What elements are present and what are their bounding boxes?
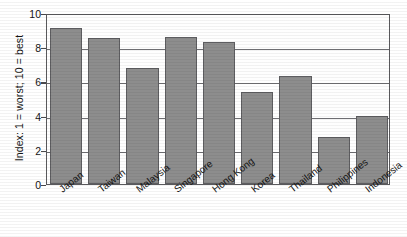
bar-chart: Index: 1 = worst; 10 = best 0246810 Japa… [0, 0, 407, 237]
y-axis-tick-label: 2 [17, 146, 41, 157]
bar [50, 28, 82, 184]
y-axis-tick-label: 10 [17, 9, 41, 20]
bar [165, 37, 197, 184]
bar [126, 68, 158, 184]
y-axis-tick-label: 4 [17, 111, 41, 122]
bar-series [47, 15, 389, 184]
y-axis-tick-label: 8 [17, 43, 41, 54]
plot-area [46, 14, 390, 185]
bar [279, 76, 311, 184]
y-axis-tick-label: 0 [17, 180, 41, 191]
bar [88, 38, 120, 184]
y-axis-tick-label: 6 [17, 77, 41, 88]
y-axis-tick-labels: 0246810 [0, 14, 41, 185]
x-axis-category-labels: JapanTaiwanMalaysiaSingaporeHong KongKor… [46, 186, 390, 237]
